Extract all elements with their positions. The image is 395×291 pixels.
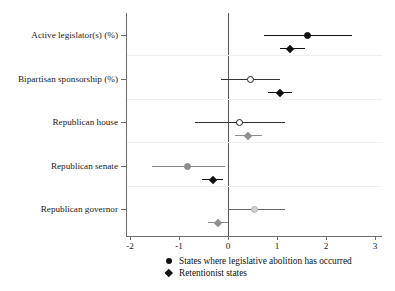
x-axis-tick	[375, 236, 376, 240]
estimate-point-circle	[247, 76, 254, 83]
y-axis-tick	[121, 166, 126, 167]
legend-entry-abolition-states: States where legislative abolition has o…	[166, 255, 386, 267]
x-axis-tick	[228, 236, 229, 240]
y-axis-tick	[121, 35, 126, 36]
gridline	[127, 55, 382, 56]
y-axis-tick	[121, 209, 126, 210]
y-axis-label-republican-governor: Republican governor	[0, 204, 118, 214]
legend-circle-icon	[166, 258, 172, 264]
legend-entry-retentionist-states: Retentionist states	[166, 267, 386, 279]
y-axis-label-republican-senate: Republican senate	[0, 161, 118, 171]
estimate-point-circle	[236, 119, 243, 126]
zero-reference-line	[228, 13, 229, 237]
estimate-point-circle	[184, 163, 191, 170]
estimate-point-diamond	[214, 218, 222, 226]
plot-area: Active legislator(s) (%) Bipartisan spon…	[0, 0, 395, 291]
x-axis-tick	[277, 236, 278, 240]
legend-label: States where legislative abolition has o…	[179, 255, 352, 267]
x-axis-tick	[326, 236, 327, 240]
estimate-point-circle	[304, 32, 311, 39]
gridline	[127, 142, 382, 143]
legend-diamond-icon	[166, 270, 172, 276]
x-axis-spine	[126, 236, 382, 237]
estimate-point-diamond	[209, 175, 217, 183]
y-axis-label-bipartisan-sponsorship: Bipartisan sponsorship (%)	[0, 74, 118, 84]
x-axis-tick-label: 3	[363, 241, 387, 251]
chart-legend: States where legislative abolition has o…	[166, 255, 386, 279]
x-axis-tick	[179, 236, 180, 240]
gridline	[127, 186, 382, 187]
estimate-point-diamond	[276, 88, 284, 96]
x-axis-tick-label: -2	[118, 241, 142, 251]
x-axis-tick-label: 2	[314, 241, 338, 251]
estimate-point-diamond	[286, 44, 294, 52]
y-axis-tick	[121, 79, 126, 80]
y-axis-label-republican-house: Republican house	[0, 117, 118, 127]
y-axis-spine	[126, 13, 127, 237]
x-axis-tick	[130, 236, 131, 240]
x-axis-tick-label: 0	[216, 241, 240, 251]
coefficient-plot-figure: Active legislator(s) (%) Bipartisan spon…	[0, 0, 395, 291]
estimate-point-circle	[251, 206, 258, 213]
legend-label: Retentionist states	[179, 267, 247, 279]
y-axis-tick	[121, 122, 126, 123]
x-axis-tick-label: 1	[265, 241, 289, 251]
estimate-point-diamond	[244, 131, 252, 139]
gridline	[127, 99, 382, 100]
y-axis-label-active-legislators: Active legislator(s) (%)	[0, 30, 118, 40]
x-axis-tick-label: -1	[167, 241, 191, 251]
